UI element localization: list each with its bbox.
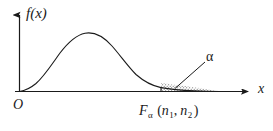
param-comma: , [174,103,178,118]
critical-value-symbol: F [139,103,148,118]
alpha-leader-line [175,62,205,89]
critical-value-subscript: α [148,110,153,120]
close-paren: ) [192,103,198,118]
density-curve [20,33,220,92]
y-axis-label: f(x) [26,6,47,21]
alpha-label: α [206,50,213,64]
f-distribution-figure: f(x) O x α Fα(n1,n2) [0,0,273,131]
param1-base: n [162,103,169,118]
origin-label: O [13,98,23,112]
critical-value-label: Fα(n1,n2) [139,104,198,120]
x-axis-label: x [258,82,264,96]
